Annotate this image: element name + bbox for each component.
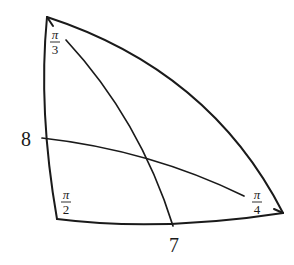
svg-text:4: 4	[254, 202, 261, 217]
svg-text:π: π	[63, 187, 70, 202]
angle-label-top: π 3	[50, 27, 60, 57]
svg-text:π: π	[254, 187, 261, 202]
angle-label-right: π 4	[252, 187, 262, 217]
svg-text:π: π	[52, 27, 59, 42]
cevian-from-left	[42, 138, 244, 196]
edge-top	[47, 17, 283, 213]
svg-text:2: 2	[63, 202, 70, 217]
side-label-left: 8	[21, 128, 31, 150]
side-label-bottom: 7	[169, 234, 179, 256]
cevian-from-top	[66, 40, 173, 226]
svg-text:3: 3	[52, 42, 59, 57]
angle-label-bottom-left: π 2	[61, 187, 71, 217]
spherical-triangle-diagram: π 3 π 2 π 4 8 7	[0, 0, 294, 265]
